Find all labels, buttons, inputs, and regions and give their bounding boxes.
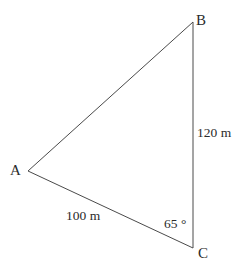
angle-label-c: 65 ° (164, 217, 186, 231)
side-length-label-ac: 100 m (66, 209, 100, 223)
triangle-shape (28, 22, 193, 248)
side-length-label-bc: 120 m (197, 126, 231, 140)
triangle-diagram: A B C 120 m 100 m 65 ° (0, 0, 251, 273)
vertex-label-a: A (10, 163, 21, 178)
vertex-label-b: B (196, 13, 206, 28)
vertex-label-c: C (198, 246, 208, 261)
